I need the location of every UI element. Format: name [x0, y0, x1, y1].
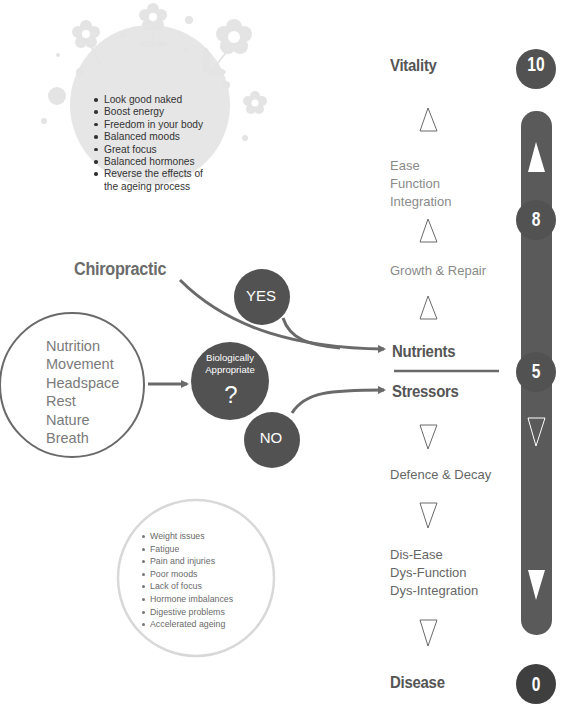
scale-10: 10: [520, 53, 551, 76]
ease-line: Ease: [390, 157, 451, 175]
list-item: Lack of focus: [142, 580, 272, 593]
disease-label: Disease: [390, 673, 445, 693]
list-item: Fatigue: [142, 543, 272, 556]
ease-stack: Ease Function Integration: [390, 157, 451, 211]
yes-label: YES: [236, 287, 286, 304]
up-arrow-icon: [420, 108, 437, 319]
decision-label: Biologically Appropriate: [190, 352, 270, 376]
list-item: Hormone imbalances: [142, 593, 272, 606]
list-item: Accelerated ageing: [142, 618, 272, 631]
list-item: Digestive problems: [142, 606, 272, 619]
list-item: Poor moods: [142, 568, 272, 581]
nutrients-label: Nutrients: [392, 342, 455, 362]
integration-line: Integration: [390, 193, 451, 211]
question-mark: ?: [216, 381, 246, 409]
list-item: Balanced moods: [104, 131, 234, 143]
list-item: Reverse the effects of: [104, 168, 234, 180]
list-item: Freedom in your body: [104, 119, 234, 131]
benefits-list: Look good naked Boost energy Freedom in …: [92, 94, 234, 193]
growth-label: Growth & Repair: [390, 262, 486, 280]
dys-function-line: Dys-Function: [390, 564, 478, 582]
function-line: Function: [390, 175, 451, 193]
list-item: the ageing process: [104, 181, 234, 193]
dis-ease-line: Dis-Ease: [390, 546, 478, 564]
scale-0: 0: [520, 673, 551, 696]
list-item: Balanced hormones: [104, 156, 234, 168]
decision-line-1: Biologically: [190, 352, 270, 364]
defence-label: Defence & Decay: [390, 466, 491, 484]
chiropractic-label: Chiropractic: [74, 259, 166, 280]
list-item: Great focus: [104, 144, 234, 156]
down-arrow-icon: [420, 425, 437, 646]
vitality-label: Vitality: [390, 56, 437, 76]
list-item: Nature: [46, 411, 119, 429]
list-item: Weight issues: [142, 530, 272, 543]
list-item: Rest: [46, 392, 119, 410]
scale-5: 5: [520, 360, 551, 383]
no-label: NO: [246, 429, 296, 446]
symptoms-list: Weight issues Fatigue Pain and injuries …: [142, 530, 272, 631]
stressors-label: Stressors: [392, 382, 459, 402]
decision-line-2: Appropriate: [190, 364, 270, 376]
list-item: Headspace: [46, 374, 119, 392]
scale-8: 8: [520, 208, 551, 231]
list-item: Look good naked: [104, 94, 234, 106]
list-item: Breath: [46, 429, 119, 447]
inputs-list: Nutrition Movement Headspace Rest Nature…: [46, 337, 119, 447]
list-item: Movement: [46, 355, 119, 373]
dys-integration-line: Dys-Integration: [390, 582, 478, 600]
list-item: Boost energy: [104, 106, 234, 118]
list-item: Nutrition: [46, 337, 119, 355]
list-item: Pain and injuries: [142, 555, 272, 568]
disease-stack: Dis-Ease Dys-Function Dys-Integration: [390, 546, 478, 600]
